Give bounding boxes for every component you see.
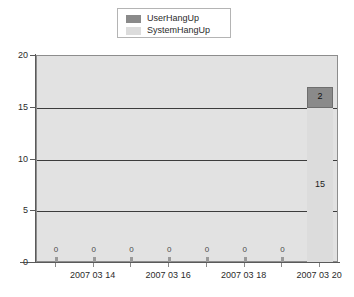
legend-item-systemhangup: SystemHangUp bbox=[126, 25, 230, 36]
bar-value-label-zero: 0 bbox=[230, 246, 260, 254]
bar-value-label-zero: 0 bbox=[154, 246, 184, 254]
x-axis-tick bbox=[206, 263, 207, 267]
legend-item-userhangup: UserHangUp bbox=[126, 13, 230, 24]
y-axis-tick-label: 10 bbox=[2, 155, 28, 164]
x-axis-tick-label: 2007 03 16 bbox=[133, 270, 203, 280]
bar-value-label-zero: 0 bbox=[79, 246, 109, 254]
bar-value-label-systemhangup: 15 bbox=[300, 180, 340, 189]
y-axis-tick bbox=[30, 262, 35, 263]
legend-label-userhangup: UserHangUp bbox=[147, 14, 199, 23]
x-axis-tick bbox=[55, 263, 56, 267]
legend-swatch-systemhangup bbox=[126, 27, 141, 35]
x-axis-tick-label: 2007 03 20 bbox=[284, 270, 354, 280]
y-axis-tick bbox=[30, 159, 35, 160]
plot-area: 0000000152 bbox=[36, 55, 338, 262]
y-axis-tick-label: 15 bbox=[2, 103, 28, 112]
gridline bbox=[37, 108, 337, 109]
bar-value-label-zero: 0 bbox=[192, 246, 222, 254]
bar-value-label-zero: 0 bbox=[116, 246, 146, 254]
y-axis-tick-label-wrap: 15 bbox=[0, 103, 28, 112]
y-axis-tick-label: 20 bbox=[2, 51, 28, 60]
y-axis-tick-label: 0 bbox=[2, 258, 28, 267]
x-axis-tick bbox=[319, 263, 320, 267]
y-axis-tick bbox=[30, 55, 35, 56]
y-axis-line bbox=[35, 54, 36, 263]
x-axis-tick bbox=[281, 263, 282, 267]
y-axis-tick-label-wrap: 5 bbox=[0, 206, 28, 215]
y-axis-tick-label-wrap: 0 bbox=[0, 258, 28, 267]
y-axis-tick-label: 5 bbox=[2, 206, 28, 215]
x-axis-tick-label: 2007 03 18 bbox=[209, 270, 279, 280]
x-axis-tick bbox=[168, 263, 169, 267]
y-axis-tick bbox=[30, 210, 35, 211]
legend-label-systemhangup: SystemHangUp bbox=[147, 26, 210, 35]
x-axis-tick bbox=[130, 263, 131, 267]
bar-value-label-zero: 0 bbox=[41, 246, 71, 254]
y-axis-tick bbox=[30, 107, 35, 108]
gridline bbox=[37, 211, 337, 212]
bar-value-label-userhangup: 2 bbox=[300, 92, 340, 101]
stacked-bar-chart: UserHangUp SystemHangUp 0000000152 05101… bbox=[0, 0, 354, 297]
y-axis-tick-label-wrap: 10 bbox=[0, 155, 28, 164]
chart-legend: UserHangUp SystemHangUp bbox=[117, 8, 231, 38]
gridline bbox=[37, 160, 337, 161]
x-axis-tick bbox=[244, 263, 245, 267]
y-axis-tick-label-wrap: 20 bbox=[0, 51, 28, 60]
x-axis-tick bbox=[93, 263, 94, 267]
x-axis-tick-label: 2007 03 14 bbox=[58, 270, 128, 280]
legend-swatch-userhangup bbox=[126, 15, 141, 23]
x-axis-line bbox=[20, 262, 340, 263]
bar-value-label-zero: 0 bbox=[267, 246, 297, 254]
